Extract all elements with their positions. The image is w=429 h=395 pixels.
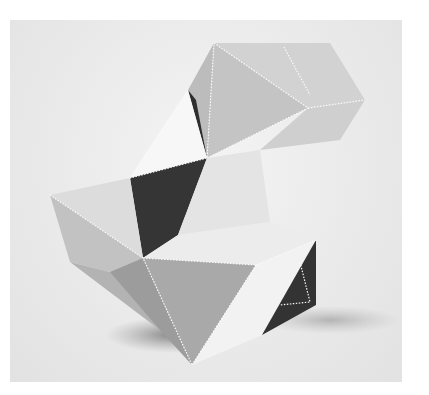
sculpture-illustration xyxy=(0,0,429,395)
